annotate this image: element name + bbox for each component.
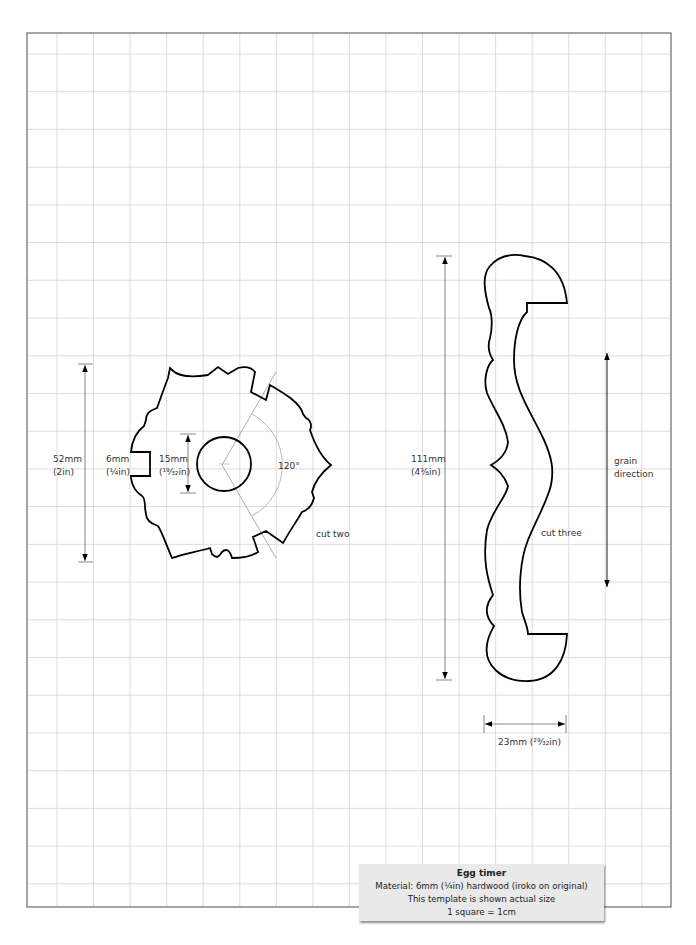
gear-height-in: (2in)	[53, 467, 74, 477]
material-note: Material: 6mm (¼in) hardwood (iroko on o…	[359, 880, 604, 893]
slot-angle-label: 120°	[278, 461, 300, 471]
upright-height-mm: 111mm	[411, 454, 446, 464]
gear-height-mm: 52mm	[53, 454, 82, 464]
gear-quantity-label: cut two	[316, 529, 350, 539]
slot-width-mm: 6mm	[106, 454, 129, 464]
grain-label-line2: direction	[614, 469, 653, 479]
slot-width-in: (¼in)	[106, 467, 130, 477]
angle-construction-line-upper	[222, 372, 276, 465]
hole-diameter-in: (¹⁹⁄₃₂in)	[159, 467, 190, 477]
upright-quantity-label: cut three	[541, 528, 582, 538]
upright-height-in: (4⅜in)	[411, 467, 441, 477]
scale-note: This template is shown actual size	[359, 893, 604, 906]
hole-diameter-mm: 15mm	[159, 454, 188, 464]
upright-outline	[485, 255, 567, 681]
upright-width-label: 23mm (²⁹⁄₃₂in)	[498, 737, 561, 747]
template-caption-box: Egg timer Material: 6mm (¼in) hardwood (…	[359, 864, 604, 921]
grid-note: 1 square = 1cm	[359, 906, 604, 919]
grain-label-line1: grain	[614, 456, 637, 466]
template-sheet: 52mm (2in) 6mm (¼in) 15mm (¹⁹⁄₃₂in) 120°…	[0, 0, 696, 945]
template-title: Egg timer	[359, 867, 604, 880]
